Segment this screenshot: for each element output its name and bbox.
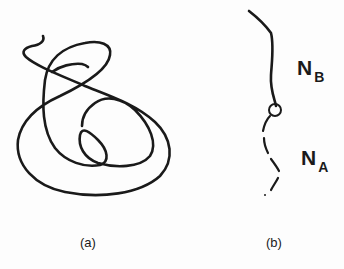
label-n-b-main: N <box>297 56 312 79</box>
block-b-solid <box>249 11 276 106</box>
label-n-a-main: N <box>301 146 316 169</box>
label-n-b-subscript: B <box>314 69 324 85</box>
figure-canvas: NB NA (a) (b) <box>0 0 344 269</box>
figure-drawing <box>0 0 344 269</box>
caption-a: (a) <box>80 235 96 250</box>
label-n-b: NB <box>297 56 322 80</box>
panel-b-chain <box>249 11 281 196</box>
caption-b: (b) <box>266 235 282 250</box>
label-n-a-subscript: A <box>318 159 328 175</box>
block-a-dashed <box>263 116 279 190</box>
panel-a-coil <box>18 36 170 195</box>
label-n-a: NA <box>301 146 326 170</box>
